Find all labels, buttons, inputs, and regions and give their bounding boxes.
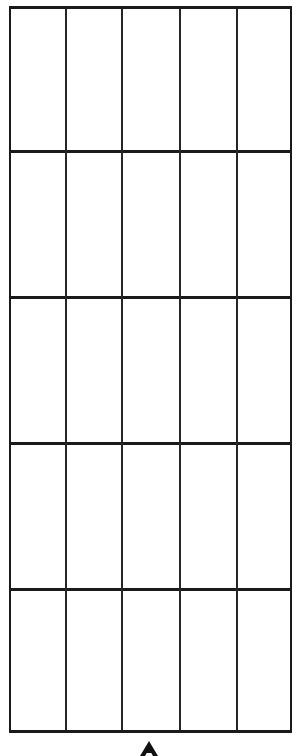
column-divider-1 xyxy=(65,9,67,730)
row-divider-4 xyxy=(11,588,290,591)
row-divider-1 xyxy=(11,150,290,153)
up-arrow-icon xyxy=(137,740,161,756)
column-divider-3 xyxy=(179,9,181,730)
grid-diagram xyxy=(9,6,292,733)
row-divider-2 xyxy=(11,296,290,299)
column-divider-2 xyxy=(121,9,123,730)
column-divider-4 xyxy=(236,9,238,730)
row-divider-3 xyxy=(11,442,290,445)
